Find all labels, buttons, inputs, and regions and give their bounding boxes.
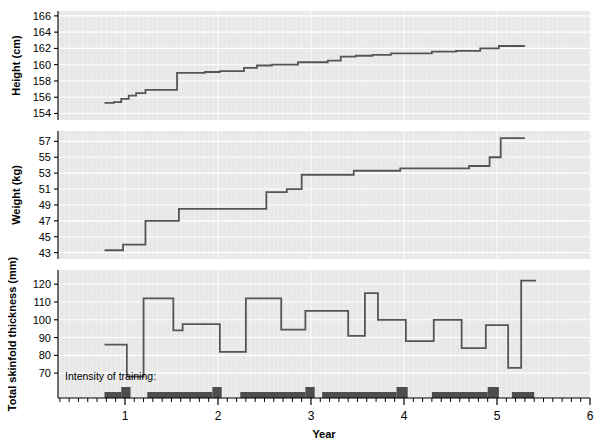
y-axis-label-height: Height (cm) — [10, 35, 22, 96]
y-tick-label-skinfold: 120 — [33, 278, 51, 290]
growth-chart-figure: 154156158160162164166Height (cm)43454749… — [0, 0, 613, 447]
panel-height: 154156158160162164166Height (cm) — [10, 10, 590, 120]
x-tick-label: 1 — [122, 409, 129, 423]
training-intensity-bar — [488, 387, 499, 398]
y-tick-label-height: 164 — [33, 26, 51, 38]
y-tick-label-height: 156 — [33, 91, 51, 103]
y-tick-label-weight: 49 — [39, 199, 51, 211]
y-tick-label-weight: 55 — [39, 151, 51, 163]
training-intensity-bar — [397, 387, 408, 398]
panel-background-weight — [58, 131, 590, 259]
y-tick-label-skinfold: 90 — [39, 332, 51, 344]
training-intensity-label: Intensity of training: — [65, 370, 156, 382]
y-axis-label-weight: Weight (kg) — [10, 165, 22, 225]
training-intensity-bar — [512, 392, 534, 398]
training-intensity-bar — [105, 392, 122, 398]
training-intensity-bar — [240, 392, 305, 398]
y-tick-label-weight: 43 — [39, 247, 51, 259]
training-intensity-bar — [305, 387, 314, 398]
panel-background-height — [58, 11, 590, 120]
chart-svg: 154156158160162164166Height (cm)43454749… — [0, 0, 613, 447]
y-tick-label-weight: 53 — [39, 167, 51, 179]
y-tick-label-height: 162 — [33, 42, 51, 54]
training-intensity-bar — [432, 392, 488, 398]
x-tick-label: 5 — [494, 409, 501, 423]
y-tick-label-skinfold: 110 — [33, 296, 51, 308]
y-tick-label-weight: 57 — [39, 135, 51, 147]
y-tick-label-height: 154 — [33, 107, 51, 119]
y-tick-label-height: 166 — [33, 10, 51, 22]
y-tick-label-skinfold: 80 — [39, 349, 51, 361]
training-intensity-bar — [212, 387, 221, 398]
training-intensity-bar — [121, 387, 130, 398]
x-tick-label: 2 — [215, 409, 222, 423]
x-tick-label: 3 — [308, 409, 315, 423]
y-tick-label-weight: 47 — [39, 215, 51, 227]
y-tick-label-weight: 45 — [39, 231, 51, 243]
x-tick-label: 6 — [587, 409, 594, 423]
y-tick-label-skinfold: 70 — [39, 367, 51, 379]
training-intensity-bar — [147, 392, 212, 398]
x-tick-label: 4 — [401, 409, 408, 423]
y-tick-label-weight: 51 — [39, 183, 51, 195]
panel-skinfold: 708090100110120Total skinfold thickness … — [6, 256, 590, 411]
y-tick-label-height: 160 — [33, 59, 51, 71]
x-axis-label: Year — [312, 428, 336, 440]
y-tick-label-height: 158 — [33, 75, 51, 87]
y-tick-label-skinfold: 100 — [33, 314, 51, 326]
y-axis-label-skinfold: Total skinfold thickness (mm) — [6, 256, 18, 411]
training-intensity-bar — [322, 392, 396, 398]
panel-weight: 4345474951535557Weight (kg) — [10, 131, 590, 259]
